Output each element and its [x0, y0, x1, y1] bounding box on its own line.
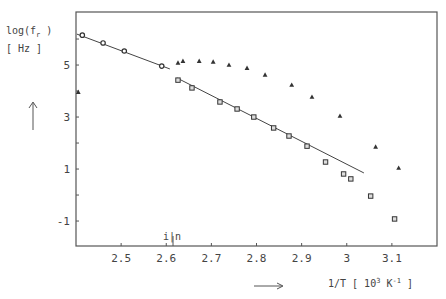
triangle-marker-icon: [176, 60, 181, 64]
fit-low-T: [177, 78, 364, 173]
square-marker-icon: [190, 86, 194, 90]
y-axis-label: log(fr ) [ Hz ]: [6, 24, 52, 56]
triangle-marker-icon: [310, 94, 315, 98]
y-tick-label: -1: [57, 215, 70, 228]
square-marker-icon: [218, 100, 222, 104]
plot-frame: [76, 12, 437, 246]
square-marker-icon: [287, 134, 291, 138]
square-marker-icon: [341, 172, 345, 176]
x-axis-label: 1/T [ 103 K-1 ]: [328, 277, 413, 289]
x-tick-label: 3.1: [382, 252, 402, 265]
circle-marker-icon: [80, 33, 84, 37]
square-marker-icon: [235, 107, 239, 111]
triangle-marker-icon: [289, 82, 294, 86]
annotation-marker: i|n: [163, 231, 181, 242]
circle-marker-icon: [101, 41, 105, 45]
triangle-marker-icon: [245, 66, 250, 70]
triangle-marker-icon: [373, 144, 378, 148]
triangle-marker-icon: [211, 59, 216, 63]
square-marker-icon: [392, 217, 396, 221]
y-tick-label: 1: [63, 163, 70, 176]
triangle-marker-icon: [197, 59, 202, 63]
tick-labels: 2.52.62.72.82.933.1-1135: [57, 59, 402, 265]
square-marker-icon: [252, 115, 256, 119]
triangle-marker-icon: [338, 113, 343, 117]
x-tick-label: 2.9: [292, 252, 312, 265]
x-tick-label: 2.8: [247, 252, 267, 265]
axis-ticks: [76, 39, 392, 246]
square-marker-icon: [271, 126, 275, 130]
y-tick-label: 3: [63, 111, 70, 124]
arrhenius-chart: 2.52.62.72.82.933.1-1135: [0, 0, 446, 299]
x-tick-label: 2.7: [201, 252, 221, 265]
plot-border: [76, 12, 437, 246]
x-tick-label: 2.6: [156, 252, 176, 265]
square-marker-icon: [323, 160, 327, 164]
triangle-marker-icon: [263, 72, 268, 76]
square-marker-icon: [368, 194, 372, 198]
x-tick-label: 3: [343, 252, 350, 265]
triangle-marker-icon: [396, 165, 401, 169]
square-marker-icon: [349, 177, 353, 181]
circle-marker-icon: [160, 64, 164, 68]
square-marker-icon: [305, 144, 309, 148]
triangle-marker-icon: [181, 59, 186, 63]
triangle-marker-icon: [227, 62, 232, 66]
x-tick-label: 2.5: [111, 252, 131, 265]
data-points: [76, 33, 401, 221]
square-marker-icon: [176, 78, 180, 82]
y-tick-label: 5: [63, 59, 70, 72]
circle-marker-icon: [122, 49, 126, 53]
